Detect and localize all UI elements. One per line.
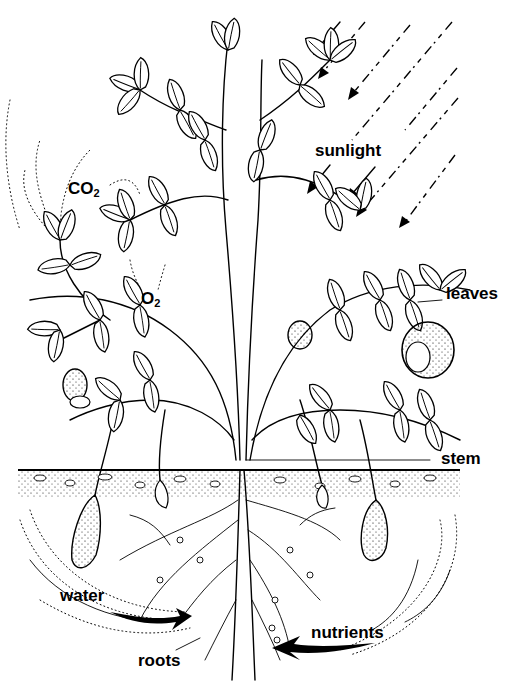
o2-subscript: 2 xyxy=(154,297,160,309)
roots-leader-line xyxy=(176,638,200,650)
label-o2: O2 xyxy=(141,290,160,309)
water-flow xyxy=(20,510,192,633)
label-leaves: leaves xyxy=(446,285,498,302)
leaves-leader-line xyxy=(418,300,442,302)
o2-text: O xyxy=(141,289,154,308)
label-water: water xyxy=(60,587,104,604)
label-stem: stem xyxy=(441,450,481,467)
label-co2: CO2 xyxy=(68,180,100,199)
co2-text: CO xyxy=(68,179,94,198)
label-roots: roots xyxy=(138,652,181,669)
label-sunlight: sunlight xyxy=(315,142,381,159)
label-nutrients: nutrients xyxy=(311,624,384,641)
co2-subscript: 2 xyxy=(94,187,100,199)
